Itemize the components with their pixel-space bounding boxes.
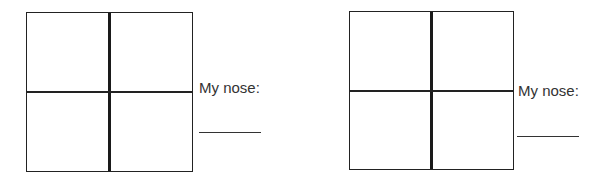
grid-horizontal-divider	[27, 91, 192, 93]
punnett-square-right	[349, 11, 514, 170]
nose-label-right: My nose:	[518, 82, 579, 99]
nose-answer-blank-right[interactable]	[517, 136, 579, 137]
nose-label-left: My nose:	[199, 79, 260, 96]
punnett-square-left	[26, 12, 193, 172]
nose-answer-blank-left[interactable]	[199, 132, 261, 133]
grid-horizontal-divider	[350, 90, 513, 92]
